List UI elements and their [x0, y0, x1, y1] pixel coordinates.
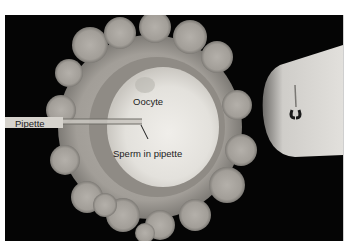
pipette-label-bar: Pipette [5, 117, 63, 128]
injection-pipette [60, 119, 142, 124]
oocyte-label: Oocyte [133, 97, 163, 107]
sperm-label: Sperm in pipette [113, 149, 182, 159]
oocyte [107, 67, 219, 187]
micrograph-illustration [5, 15, 343, 241]
pipette-label: Pipette [15, 118, 45, 129]
holding-pipette [263, 45, 343, 157]
micrograph: Pipette Oocyte Sperm in pipette [5, 15, 344, 241]
